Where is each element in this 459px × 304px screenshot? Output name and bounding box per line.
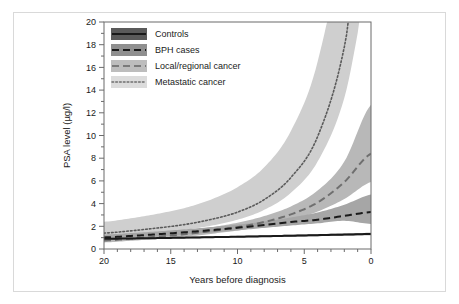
x-tick-label: 10	[232, 256, 242, 266]
legend-label: Metastatic cancer	[155, 77, 226, 87]
y-tick-label: 20	[86, 17, 96, 27]
y-tick-label: 10	[86, 131, 96, 141]
y-tick-label: 2	[91, 222, 96, 232]
y-axis-title: PSA level (µg/l)	[61, 103, 72, 168]
legend-label: Local/regional cancer	[155, 61, 241, 71]
x-tick-label: 5	[302, 256, 307, 266]
y-tick-label: 8	[91, 153, 96, 163]
legend-label: Controls	[155, 29, 189, 39]
y-tick-label: 12	[86, 108, 96, 118]
legend-label: BPH cases	[155, 45, 200, 55]
y-tick-label: 18	[86, 40, 96, 50]
figure-frame: 0246810121416182020151050 ControlsBPH ca…	[13, 12, 446, 292]
y-tick-label: 4	[91, 199, 96, 209]
psa-level-chart: 0246810121416182020151050 ControlsBPH ca…	[14, 13, 445, 291]
y-tick-label: 6	[91, 176, 96, 186]
legend-item-bph-cases[interactable]: BPH cases	[111, 44, 200, 56]
y-tick-label: 0	[91, 244, 96, 254]
legend-item-local-regional-cancer[interactable]: Local/regional cancer	[111, 60, 241, 72]
x-tick-label: 15	[166, 256, 176, 266]
x-tick-label: 0	[368, 256, 373, 266]
x-tick-label: 20	[99, 256, 109, 266]
y-tick-label: 14	[86, 85, 96, 95]
x-axis-title: Years before diagnosis	[189, 274, 286, 285]
y-tick-label: 16	[86, 63, 96, 73]
legend-item-metastatic-cancer[interactable]: Metastatic cancer	[111, 76, 226, 88]
chart-legend: ControlsBPH casesLocal/regional cancerMe…	[108, 24, 268, 96]
